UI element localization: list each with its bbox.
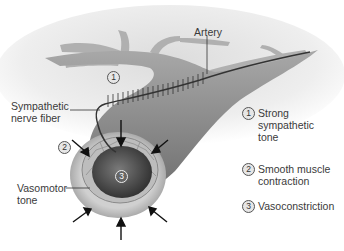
label-line: nerve fiber (11, 112, 69, 124)
marker-3: 3 (115, 170, 128, 183)
marker-1: 1 (107, 71, 120, 84)
legend-line: tone (258, 131, 314, 143)
legend-number: 2 (242, 163, 255, 176)
legend-text: Strong sympathetic tone (258, 107, 314, 143)
vasoconstriction-diagram: Artery Sympathetic nerve fiber Vasomotor… (0, 0, 344, 251)
legend-line: Strong (258, 107, 314, 119)
vasomotor-tone-label: Vasomotor tone (17, 182, 67, 206)
marker-2: 2 (58, 141, 71, 154)
label-line: tone (17, 194, 67, 206)
legend-text: Vasoconstriction (258, 200, 334, 212)
artery-label: Artery (194, 26, 222, 38)
label-line: Vasomotor (17, 182, 67, 194)
label-line: Sympathetic (11, 100, 69, 112)
legend-line: Vasoconstriction (258, 200, 334, 212)
legend-text: Smooth muscle contraction (258, 163, 330, 187)
legend-line: Smooth muscle (258, 163, 330, 175)
sympathetic-nerve-fiber-label: Sympathetic nerve fiber (11, 100, 69, 124)
legend-number: 1 (242, 107, 255, 120)
legend-line: contraction (258, 175, 330, 187)
legend-number: 3 (242, 200, 255, 213)
legend-line: sympathetic (258, 119, 314, 131)
